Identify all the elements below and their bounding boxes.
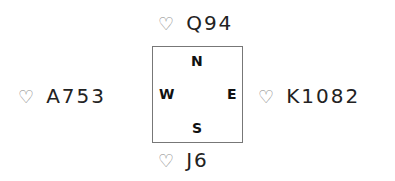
- east-hand: ♡K1082: [258, 84, 360, 109]
- compass-box: N W E S: [152, 46, 243, 143]
- compass-north: N: [191, 53, 203, 69]
- heart-icon: ♡: [258, 86, 274, 107]
- east-cards: K1082: [286, 84, 360, 108]
- west-hand: ♡A753: [18, 84, 106, 109]
- compass-west: W: [159, 86, 174, 102]
- heart-icon: ♡: [158, 150, 174, 171]
- south-cards: J6: [186, 148, 209, 172]
- compass-south: S: [192, 120, 202, 136]
- heart-icon: ♡: [158, 13, 174, 34]
- south-hand: ♡J6: [158, 148, 209, 173]
- north-cards: Q94: [186, 11, 233, 35]
- compass-east: E: [227, 86, 237, 102]
- heart-icon: ♡: [18, 86, 34, 107]
- north-hand: ♡Q94: [158, 11, 233, 36]
- west-cards: A753: [46, 84, 106, 108]
